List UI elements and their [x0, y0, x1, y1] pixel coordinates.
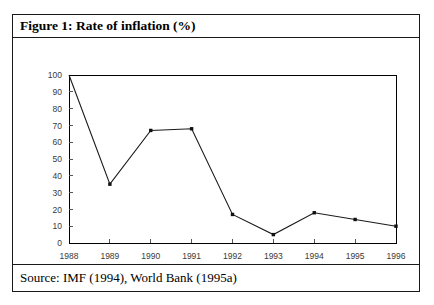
- y-tick-label: 20: [53, 205, 63, 215]
- y-tick-label: 100: [48, 70, 62, 80]
- y-tick-label: 60: [53, 137, 63, 147]
- y-tick-label: 0: [57, 238, 62, 248]
- x-axis-ticks: 198819891990199119921993199419951996: [60, 239, 406, 261]
- y-tick-label: 40: [53, 171, 63, 181]
- figure-title: Figure 1: Rate of inflation (%): [13, 15, 419, 38]
- inflation-line-chart: 0102030405060708090100 19881989199019911…: [13, 38, 419, 266]
- y-tick-label: 90: [53, 87, 63, 97]
- y-tick-label: 30: [53, 188, 63, 198]
- chart-plot-area: 0102030405060708090100 19881989199019911…: [13, 38, 419, 264]
- data-point-marker: [231, 213, 234, 216]
- x-tick-label: 1994: [305, 251, 324, 261]
- data-point-marker: [313, 211, 316, 214]
- data-point-marker: [190, 127, 193, 130]
- x-tick-label: 1992: [223, 251, 242, 261]
- x-tick-label: 1989: [100, 251, 119, 261]
- data-point-marker: [149, 129, 152, 132]
- x-tick-label: 1988: [60, 251, 79, 261]
- data-point-marker: [394, 225, 397, 228]
- figure-source-note: Source: IMF (1994), World Bank (1995a): [13, 264, 419, 291]
- data-point-marker: [272, 233, 275, 236]
- x-tick-label: 1993: [264, 251, 283, 261]
- x-tick-label: 1995: [346, 251, 365, 261]
- data-point-marker: [353, 218, 356, 221]
- x-tick-label: 1990: [141, 251, 160, 261]
- y-tick-label: 50: [53, 154, 63, 164]
- x-tick-label: 1991: [182, 251, 201, 261]
- inflation-line: [69, 75, 396, 235]
- figure-frame: Figure 1: Rate of inflation (%) 01020304…: [12, 14, 420, 292]
- y-tick-label: 10: [53, 221, 63, 231]
- inflation-series: [69, 75, 398, 236]
- data-point-marker: [108, 183, 111, 186]
- y-tick-label: 80: [53, 104, 63, 114]
- x-tick-label: 1996: [387, 251, 406, 261]
- y-tick-label: 70: [53, 121, 63, 131]
